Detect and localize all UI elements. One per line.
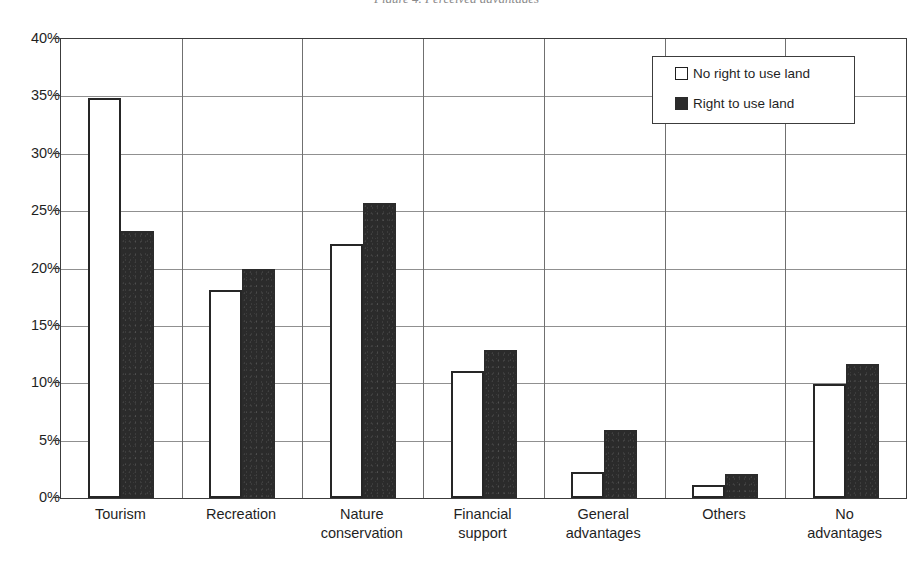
legend-label: No right to use land [693,66,810,81]
x-axis-tick-label: Recreation [181,505,302,524]
legend-item-right-to-use-land: Right to use land [675,96,794,111]
y-axis-tick-mark [53,268,60,269]
gridline-horizontal [61,326,906,327]
bar [451,371,484,498]
x-axis-tick-label: Natureconservation [301,505,422,543]
bar [484,350,517,498]
bar [121,231,154,498]
x-axis-tick-label: Noadvantages [784,505,905,543]
y-axis-tick-mark [53,95,60,96]
gridline-vertical [423,39,424,498]
bar [363,203,396,498]
chart-legend: No right to use land Right to use land [652,56,855,124]
y-axis-tick-mark [53,210,60,211]
bar [330,244,363,498]
legend-label: Right to use land [693,96,794,111]
gridline-horizontal [61,269,906,270]
bar [242,269,275,499]
clipped-caption-fragment: Figure 4. Perceived advantages [0,0,913,3]
bar [88,98,121,498]
bar [604,430,637,498]
gridline-vertical [302,39,303,498]
y-axis-tick-mark [53,153,60,154]
bar [846,364,879,498]
bar [692,485,725,498]
x-axis-tick-label: Tourism [60,505,181,524]
gridline-horizontal [61,154,906,155]
y-axis-tick-mark [53,382,60,383]
y-axis-tick-mark [53,440,60,441]
filled-square-icon [675,97,688,110]
y-axis-tick-mark [53,497,60,498]
y-axis-tick-mark [53,325,60,326]
open-square-icon [675,67,688,80]
bar-chart: Figure 4. Perceived advantages 0%5%10%15… [0,0,913,577]
y-axis-tick-mark [53,38,60,39]
x-axis-labels: TourismRecreationNatureconservationFinan… [60,505,905,565]
bar [725,474,758,498]
x-axis-tick-label: Financialsupport [422,505,543,543]
legend-item-no-right-to-use-land: No right to use land [675,66,810,81]
gridline-vertical [544,39,545,498]
bar [813,384,846,498]
bar [209,290,242,498]
gridline-vertical [182,39,183,498]
y-axis: 0%5%10%15%20%25%30%35%40% [0,0,60,577]
x-axis-tick-label: Generaladvantages [543,505,664,543]
x-axis-tick-label: Others [664,505,785,524]
gridline-horizontal [61,211,906,212]
bar [571,472,604,498]
